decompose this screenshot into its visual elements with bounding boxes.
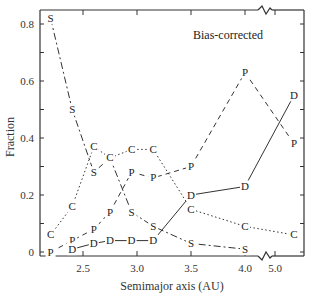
x-tick-label: 4.0	[238, 262, 252, 274]
y-tick-label: 0.4	[20, 132, 34, 144]
series-line-c	[51, 147, 294, 235]
series-line-s	[51, 18, 245, 249]
marker-d: D	[187, 189, 195, 201]
annotation-bias-corrected: Bias-corrected	[193, 28, 263, 42]
marker-d: D	[149, 234, 157, 246]
marker-s: S	[150, 220, 156, 232]
marker-p: P	[129, 166, 135, 178]
marker-c: C	[150, 143, 157, 155]
plot-frame	[40, 6, 304, 260]
marker-c: C	[128, 143, 135, 155]
marker-s: S	[242, 243, 248, 255]
marker-d: D	[90, 237, 98, 249]
marker-p: P	[242, 66, 248, 78]
x-tick-label: 3.0	[130, 262, 144, 274]
marker-s: S	[188, 237, 194, 249]
y-tick-label: 0.6	[20, 75, 34, 87]
marker-s: S	[129, 206, 135, 218]
marker-c: C	[290, 228, 297, 240]
marker-p: P	[107, 206, 113, 218]
chart: 00.20.40.60.8 2.53.03.54.05.0 SSSSSSSSCC…	[0, 0, 310, 296]
x-tick-labels: 2.53.03.54.05.0	[76, 262, 282, 274]
marker-p: P	[291, 137, 297, 149]
marker-s: S	[48, 12, 54, 24]
marker-c: C	[187, 203, 194, 215]
y-axis-label: Fraction	[3, 117, 17, 157]
x-tick-label: 2.5	[76, 262, 90, 274]
marker-p: P	[91, 223, 97, 235]
marker-p: P	[48, 246, 54, 258]
series-markers: SSSSSSSSCCCCCCCCCPPPPPPPPPDDDDDDDD	[46, 12, 299, 258]
series-line-d	[72, 95, 294, 249]
marker-c: C	[241, 220, 248, 232]
marker-c: C	[90, 140, 97, 152]
marker-p: P	[188, 160, 194, 172]
x-axis-label: Semimajor axis (AU)	[120, 279, 223, 293]
marker-p: P	[150, 171, 156, 183]
x-tick-label: 3.5	[184, 262, 198, 274]
x-tick-label: 5.0	[268, 262, 282, 274]
marker-c: C	[106, 151, 113, 163]
marker-s: S	[69, 103, 75, 115]
marker-d: D	[290, 89, 298, 101]
marker-s: S	[91, 166, 97, 178]
y-tick-label: 0	[29, 246, 35, 258]
marker-d: D	[106, 234, 114, 246]
marker-d: D	[241, 180, 249, 192]
series-lines	[51, 18, 294, 252]
y-tick-labels: 00.20.40.60.8	[20, 18, 34, 258]
marker-d: D	[68, 243, 76, 255]
marker-d: D	[128, 234, 136, 246]
y-tick-label: 0.2	[20, 189, 34, 201]
marker-c: C	[47, 228, 54, 240]
marker-c: C	[69, 200, 76, 212]
y-tick-label: 0.8	[20, 18, 34, 30]
